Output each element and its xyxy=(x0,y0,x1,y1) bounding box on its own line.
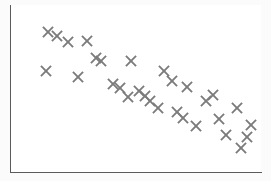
data-point xyxy=(122,91,135,104)
data-point xyxy=(72,71,85,84)
data-point xyxy=(107,78,120,91)
data-point xyxy=(90,52,103,65)
data-point xyxy=(152,102,165,115)
data-point xyxy=(213,113,226,126)
data-point xyxy=(51,30,64,43)
data-point xyxy=(241,131,254,144)
data-point xyxy=(139,90,152,103)
data-point xyxy=(125,55,138,68)
data-point xyxy=(181,81,194,94)
data-point xyxy=(200,95,213,108)
data-point xyxy=(166,75,179,88)
data-point xyxy=(177,112,190,125)
data-point-layer xyxy=(0,0,271,181)
scatter-plot-figure xyxy=(0,0,271,181)
data-point xyxy=(190,120,203,133)
data-point xyxy=(81,35,94,48)
data-point xyxy=(231,102,244,115)
data-point xyxy=(220,129,233,142)
data-point xyxy=(40,65,53,78)
